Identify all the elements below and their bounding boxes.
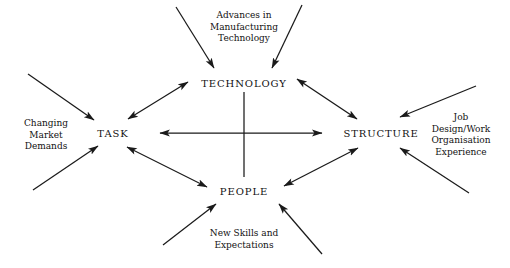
connector-people-structure: [284, 148, 358, 186]
external-label-advances: Advances in Manufacturing Technology: [210, 10, 278, 45]
node-technology[interactable]: TECHNOLOGY: [199, 77, 289, 90]
node-people[interactable]: PEOPLE: [218, 185, 270, 198]
external-label-job: Job Design/Work Organisation Experience: [431, 112, 490, 158]
external-label-skills-line-2: Expectations: [210, 239, 278, 251]
external-arrow-market-lower: [33, 146, 98, 190]
node-task[interactable]: TASK: [95, 127, 130, 140]
external-label-job-line-2: Design/Work: [431, 124, 490, 136]
external-label-job-line-1: Job: [431, 112, 490, 124]
external-label-advances-line-2: Manufacturing: [210, 21, 278, 33]
external-arrow-advances-left: [176, 7, 214, 68]
connector-task-technology: [128, 82, 188, 119]
external-label-job-line-3: Organisation: [431, 135, 490, 147]
external-arrow-skills-left: [163, 204, 216, 245]
external-arrow-market-upper: [28, 74, 94, 120]
external-label-advances-line-1: Advances in: [210, 10, 278, 22]
external-label-job-line-4: Experience: [431, 147, 490, 159]
external-label-advances-line-3: Technology: [210, 33, 278, 45]
connector-task-people: [127, 147, 207, 187]
connector-technology-structure: [297, 79, 357, 119]
external-label-market-line-2: Market: [24, 129, 68, 141]
external-label-market-line-3: Demands: [24, 141, 68, 153]
external-label-market: Changing Market Demands: [24, 118, 68, 153]
external-label-skills-line-1: New Skills and: [210, 228, 278, 240]
external-label-market-line-1: Changing: [24, 118, 68, 130]
diagram-canvas: TECHNOLOGY TASK STRUCTURE PEOPLE Advance…: [0, 0, 510, 268]
node-structure[interactable]: STRUCTURE: [341, 127, 420, 140]
external-label-skills: New Skills and Expectations: [210, 228, 278, 251]
external-arrow-skills-right: [279, 204, 322, 254]
